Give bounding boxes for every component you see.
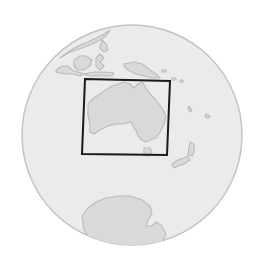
- locator-map: Australia: [0, 0, 262, 272]
- landmass-java: [84, 72, 114, 76]
- globe-svg: [0, 0, 262, 272]
